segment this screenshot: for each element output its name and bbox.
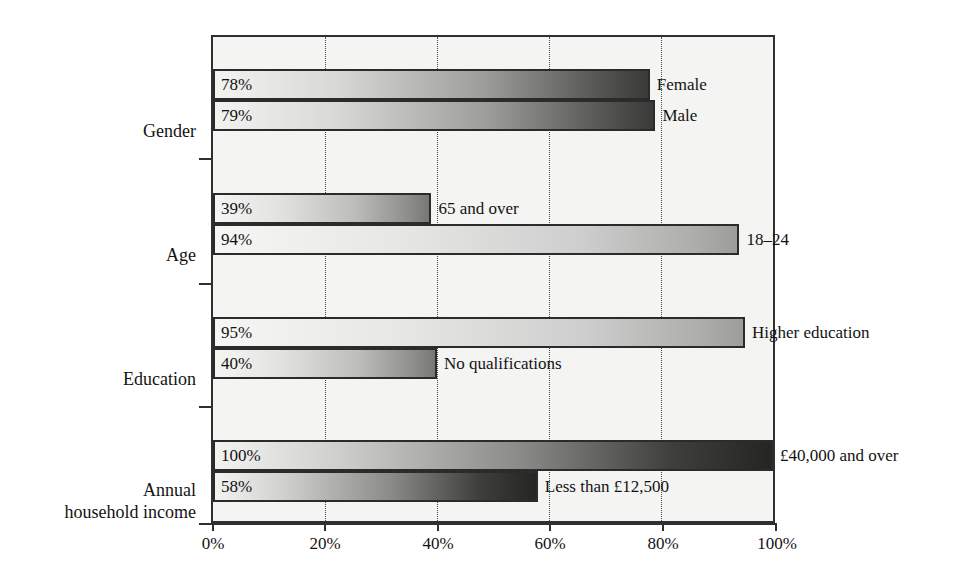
category-label-age: Age [166, 244, 196, 266]
x-axis-tick-60 [549, 523, 551, 531]
x-axis-tick-100 [775, 523, 777, 531]
category-axis-labels: Gender Age Education Annual household in… [0, 35, 196, 523]
x-axis-label-100: 100% [757, 534, 797, 554]
bar-value-less-than-12500: 58% [221, 471, 252, 502]
x-axis-label-60: 60% [534, 534, 565, 554]
x-axis-label-0: 0% [202, 534, 225, 554]
bar-row: 39% 65 and over [213, 193, 773, 224]
x-axis-tick-20 [324, 523, 326, 531]
x-axis-label-20: 20% [309, 534, 340, 554]
x-axis-line [211, 523, 777, 525]
bar-label-higher-education: Higher education [752, 317, 870, 348]
x-axis-tick-80 [662, 523, 664, 531]
bar-row: 78% Female [213, 69, 773, 100]
category-label-annual-household-income: Annual household income [65, 479, 196, 523]
category-label-education: Education [123, 368, 196, 390]
bar-row: 100% £40,000 and over [213, 440, 773, 471]
bar-value-male: 79% [221, 100, 252, 131]
bar-row: 94% 18–24 [213, 224, 773, 255]
bar-value-18-24: 94% [221, 224, 252, 255]
y-axis-group-tick [199, 406, 211, 408]
bar-label-less-than-12500: Less than £12,500 [545, 471, 669, 502]
bar-18-24[interactable] [213, 224, 739, 255]
bar-row: 79% Male [213, 100, 773, 131]
x-axis-label-80: 80% [647, 534, 678, 554]
bar-row: 40% No qualifications [213, 348, 773, 379]
bar-label-18-24: 18–24 [746, 224, 789, 255]
bar-male[interactable] [213, 100, 655, 131]
bar-value-female: 78% [221, 69, 252, 100]
bar-label-female: Female [657, 69, 707, 100]
bar-row: 95% Higher education [213, 317, 773, 348]
bar-higher-education[interactable] [213, 317, 745, 348]
bar-female[interactable] [213, 69, 650, 100]
bar-value-40000-and-over: 100% [221, 440, 261, 471]
bar-less-than-12500[interactable] [213, 471, 538, 502]
bar-label-no-qualifications: No qualifications [444, 348, 562, 379]
y-axis-group-tick [199, 283, 211, 285]
bar-label-65-and-over: 65 and over [438, 193, 518, 224]
category-label-line-1: Annual [65, 479, 196, 501]
category-label-gender: Gender [143, 120, 196, 142]
bar-value-higher-education: 95% [221, 317, 252, 348]
bar-40000-and-over[interactable] [213, 440, 773, 471]
y-axis-group-tick [199, 523, 211, 525]
bar-label-male: Male [662, 100, 697, 131]
x-axis-tick-0 [212, 523, 214, 531]
bar-value-no-qualifications: 40% [221, 348, 252, 379]
x-axis-tick-40 [437, 523, 439, 531]
bar-chart: Gender Age Education Annual household in… [0, 0, 967, 582]
category-label-line-2: household income [65, 501, 196, 523]
bar-row: 58% Less than £12,500 [213, 471, 773, 502]
x-axis-label-40: 40% [422, 534, 453, 554]
y-axis-group-tick [199, 158, 211, 160]
bar-value-65-and-over: 39% [221, 193, 252, 224]
bar-label-40000-and-over: £40,000 and over [780, 440, 899, 471]
